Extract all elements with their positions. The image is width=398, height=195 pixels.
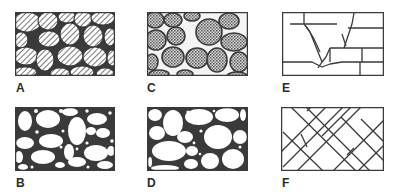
panel-d: [147, 107, 248, 171]
open-grains-matrix-diagram: [15, 107, 115, 171]
panel-label-b: B: [16, 177, 25, 189]
hatched-grains-diagram: [15, 12, 115, 76]
open-grains-cemented-diagram: [147, 107, 248, 171]
panel-e: [282, 12, 384, 76]
panel-f: [281, 107, 384, 171]
panel-label-c: C: [147, 82, 156, 94]
cross-fractures-diagram: [281, 107, 384, 171]
panel-label-a: A: [16, 82, 25, 94]
panel-a: [15, 12, 115, 76]
panel-label-f: F: [282, 177, 289, 189]
panel-label-e: E: [282, 82, 290, 94]
panel-label-d: D: [147, 177, 156, 189]
panel-b: [15, 107, 115, 171]
panel-c: [147, 12, 248, 76]
fractured-blocks-diagram: [282, 12, 384, 76]
dotted-grains-diagram: [147, 12, 248, 76]
